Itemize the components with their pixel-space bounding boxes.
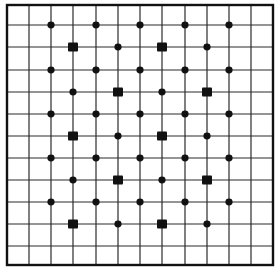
dot-marker bbox=[69, 177, 76, 184]
dot-marker bbox=[203, 44, 210, 51]
dot-marker bbox=[181, 199, 188, 206]
dot-marker bbox=[181, 111, 188, 118]
square-marker bbox=[113, 176, 123, 185]
dot-marker bbox=[92, 111, 99, 118]
dot-marker bbox=[203, 221, 210, 228]
dot-marker bbox=[225, 111, 232, 118]
dot-marker bbox=[136, 22, 143, 29]
dot-marker bbox=[136, 111, 143, 118]
dot-marker bbox=[158, 177, 165, 184]
square-marker bbox=[157, 220, 167, 229]
dot-marker bbox=[114, 133, 121, 140]
dot-marker bbox=[47, 111, 54, 118]
square-marker bbox=[157, 132, 167, 141]
square-marker bbox=[202, 176, 212, 185]
dot-marker bbox=[203, 133, 210, 140]
dot-marker bbox=[136, 67, 143, 74]
dot-marker bbox=[47, 155, 54, 162]
dot-marker bbox=[136, 199, 143, 206]
dot-marker bbox=[225, 155, 232, 162]
dot-marker bbox=[181, 155, 188, 162]
dot-marker bbox=[92, 22, 99, 29]
dot-marker bbox=[136, 155, 143, 162]
dot-marker bbox=[225, 199, 232, 206]
square-marker bbox=[113, 88, 123, 97]
square-marker bbox=[202, 88, 212, 97]
dot-marker bbox=[92, 199, 99, 206]
square-marker bbox=[68, 43, 78, 52]
dot-marker bbox=[47, 199, 54, 206]
grid-lines bbox=[7, 5, 273, 265]
dot-marker bbox=[181, 67, 188, 74]
dot-marker bbox=[225, 67, 232, 74]
dot-marker bbox=[69, 89, 76, 96]
dot-marker bbox=[114, 44, 121, 51]
dot-marker bbox=[158, 89, 165, 96]
dot-marker bbox=[181, 22, 188, 29]
square-marker bbox=[157, 43, 167, 52]
dot-marker bbox=[47, 67, 54, 74]
square-marker bbox=[68, 132, 78, 141]
dot-marker bbox=[92, 67, 99, 74]
square-marker bbox=[68, 220, 78, 229]
dot-marker bbox=[92, 155, 99, 162]
dot-marker bbox=[225, 22, 232, 29]
dot-marker bbox=[114, 221, 121, 228]
lattice-grid-diagram bbox=[0, 0, 278, 269]
dot-marker bbox=[47, 22, 54, 29]
